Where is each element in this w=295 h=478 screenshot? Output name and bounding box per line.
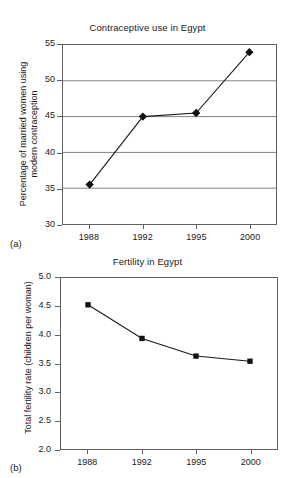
data-series-line	[90, 52, 250, 184]
y-axis-label-contraceptive-use: Percentage of married women using modern…	[18, 39, 40, 229]
y-axis-tick-mark	[57, 225, 62, 226]
y-axis-tick-mark	[57, 80, 62, 81]
x-axis-tick-label: 1988	[67, 457, 107, 467]
panel-label-b: (b)	[10, 462, 22, 473]
data-point-marker	[247, 359, 252, 364]
x-axis-tick-label: 2000	[230, 232, 270, 242]
figure-panel-a: Contraceptive use in Egypt Percentage of…	[0, 0, 295, 252]
x-axis-tick-mark	[87, 450, 88, 454]
y-axis-tick-label: 30	[22, 219, 55, 229]
y-axis-tick-label: 45	[22, 110, 55, 120]
y-axis-tick-mark	[55, 364, 60, 365]
line-chart-contraceptive-use	[63, 45, 276, 224]
x-axis-tick-label: 1988	[69, 232, 109, 242]
chart-title-contraceptive-use: Contraceptive use in Egypt	[0, 22, 295, 33]
x-axis-tick-mark	[89, 225, 90, 229]
x-axis-tick-label: 1992	[123, 232, 163, 242]
y-axis-tick-label: 4.5	[18, 300, 51, 310]
y-axis-tick-label: 4.0	[18, 329, 51, 339]
x-axis-tick-label: 1992	[122, 457, 162, 467]
y-axis-tick-mark	[57, 44, 62, 45]
x-axis-tick-mark	[142, 450, 143, 454]
x-axis-tick-mark	[196, 450, 197, 454]
chart-title-fertility: Fertility in Egypt	[0, 256, 295, 267]
y-axis-tick-label: 2.0	[18, 444, 51, 454]
y-axis-tick-mark	[55, 450, 60, 451]
y-axis-tick-label: 35	[22, 183, 55, 193]
y-axis-tick-label: 5.0	[18, 271, 51, 281]
x-axis-tick-mark	[196, 225, 197, 229]
panel-label-a: (a)	[10, 238, 22, 249]
plot-area-contraceptive-use	[62, 44, 277, 225]
plot-area-fertility	[60, 277, 278, 450]
y-axis-tick-label: 3.0	[18, 386, 51, 396]
y-axis-tick-mark	[55, 335, 60, 336]
x-axis-tick-label: 1995	[176, 457, 216, 467]
y-axis-tick-label: 2.5	[18, 415, 51, 425]
data-point-marker	[85, 302, 90, 307]
x-axis-tick-mark	[143, 225, 144, 229]
y-axis-tick-mark	[55, 277, 60, 278]
data-series-line	[88, 305, 250, 361]
line-chart-fertility	[61, 278, 277, 449]
x-axis-tick-mark	[251, 450, 252, 454]
figure-panel-b: Fertility in Egypt Total fertility rate …	[0, 252, 295, 478]
x-axis-tick-mark	[250, 225, 251, 229]
y-axis-tick-mark	[57, 189, 62, 190]
data-point-marker	[139, 336, 144, 341]
y-axis-tick-mark	[57, 116, 62, 117]
y-axis-tick-mark	[55, 421, 60, 422]
y-axis-tick-mark	[57, 153, 62, 154]
data-point-marker	[193, 353, 198, 358]
y-axis-tick-label: 40	[22, 147, 55, 157]
y-axis-tick-label: 55	[22, 38, 55, 48]
x-axis-tick-label: 1995	[176, 232, 216, 242]
y-axis-tick-label: 3.5	[18, 358, 51, 368]
x-axis-tick-label: 2000	[231, 457, 271, 467]
y-axis-tick-label: 50	[22, 74, 55, 84]
y-axis-tick-mark	[55, 306, 60, 307]
y-axis-tick-mark	[55, 392, 60, 393]
